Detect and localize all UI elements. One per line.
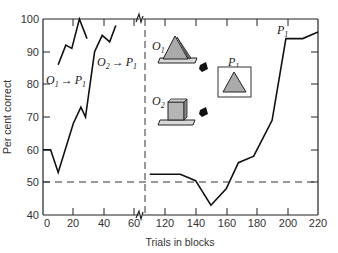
- chart: 100 90 80 70 60 50 40 0 20 40 60 120 140…: [0, 0, 338, 253]
- svg-text:80: 80: [27, 78, 39, 90]
- y-axis-title: Per cent correct: [1, 80, 13, 154]
- svg-text:90: 90: [27, 46, 39, 58]
- svg-text:O1→P1: O1→P1: [46, 73, 86, 89]
- svg-text:60: 60: [128, 217, 140, 229]
- arrow-o1-icon: [199, 62, 208, 72]
- picture-frame-icon: [218, 67, 251, 97]
- svg-text:160: 160: [218, 217, 236, 229]
- x-tick-labels: 0 20 40 60 120 140 160 180 200 220: [44, 217, 327, 229]
- svg-text:140: 140: [187, 217, 205, 229]
- x-ticks-top: [73, 19, 288, 26]
- svg-text:O2→P1: O2→P1: [97, 55, 137, 71]
- label-o1-p1: O1→P1: [46, 73, 86, 89]
- svg-text:200: 200: [279, 217, 297, 229]
- axis-break-top: [136, 14, 143, 22]
- label-o2-p1: O2→P1: [97, 55, 137, 71]
- svg-text:60: 60: [27, 144, 39, 156]
- x-axis-title: Trials in blocks: [145, 236, 214, 248]
- svg-text:120: 120: [156, 217, 174, 229]
- svg-text:50: 50: [27, 176, 39, 188]
- y-ticks: [43, 52, 50, 182]
- label-p1-curve: P1: [276, 23, 288, 39]
- x-ticks: [73, 208, 288, 215]
- arrow-o2-icon: [199, 107, 208, 117]
- svg-text:220: 220: [309, 217, 327, 229]
- svg-text:P1: P1: [276, 23, 288, 39]
- svg-text:100: 100: [21, 13, 39, 25]
- svg-text:0: 0: [44, 217, 50, 229]
- svg-text:20: 20: [67, 217, 79, 229]
- svg-text:180: 180: [248, 217, 266, 229]
- svg-text:40: 40: [98, 217, 110, 229]
- y-ticks-right: [311, 52, 318, 182]
- inset-illustration: O1 O2 P1: [152, 36, 251, 125]
- svg-text:40: 40: [27, 209, 39, 221]
- inset-o2-label: O2: [152, 94, 165, 110]
- inset-o1-label: O1: [152, 39, 165, 55]
- svg-text:70: 70: [27, 111, 39, 123]
- series-line-1: [43, 26, 116, 173]
- y-tick-labels: 100 90 80 70 60 50 40: [21, 13, 39, 221]
